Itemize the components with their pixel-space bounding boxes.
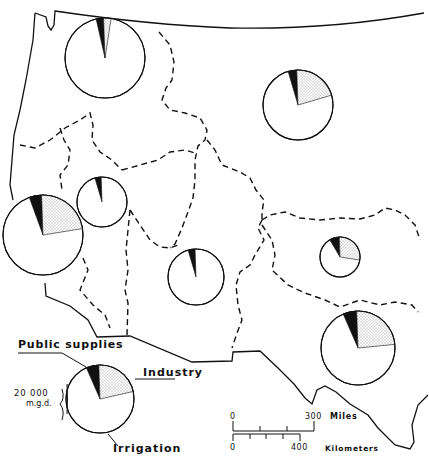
legend-industry-label: Industry [143, 366, 203, 379]
pie-industry-slice [357, 311, 395, 348]
scale-km-zero: 0 [230, 443, 235, 452]
legend-size-unit: m.g.d. [26, 399, 52, 408]
legend-public-supplies-label: Public supplies [18, 338, 123, 351]
pie-industry-slice [42, 195, 83, 235]
scale-bar [233, 204, 314, 441]
scale-miles-label: Miles [330, 412, 358, 421]
pie-industry-slice [339, 237, 360, 260]
scale-km-label: Kilometers [325, 444, 379, 453]
scale-miles-max: 300 [305, 412, 322, 421]
legend-irrigation-label: Irrigation [113, 442, 181, 455]
scale-km-max: 400 [291, 443, 308, 452]
map-canvas: Public supplies Industry Irrigation 20 0… [0, 0, 429, 456]
legend-size-value: 20 000 [14, 388, 49, 398]
scale-miles-zero: 0 [230, 412, 235, 421]
